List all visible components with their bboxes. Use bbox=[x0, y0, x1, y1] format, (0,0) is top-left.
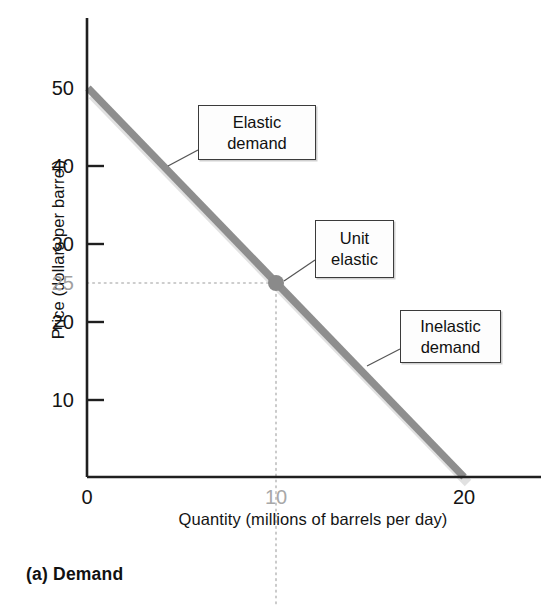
y-tick-label-10: 10 bbox=[12, 390, 74, 410]
callout-unit-elastic-line2: elastic bbox=[331, 249, 378, 270]
x-axis-title: Quantity (millions of barrels per day) bbox=[87, 510, 539, 529]
callout-unit-elastic-line1: Unit bbox=[340, 228, 369, 249]
callout-elastic-demand-line1: Elastic bbox=[233, 112, 282, 133]
elastic-demand-leader-line bbox=[168, 150, 198, 166]
demand-elasticity-figure: Price (dollars per barrel) Quantity (mil… bbox=[0, 0, 541, 605]
unit-elastic-point bbox=[268, 275, 284, 291]
y-tick-label-40: 40 bbox=[12, 156, 74, 176]
x-tick-label-20: 20 bbox=[434, 487, 494, 507]
y-tick-label-50: 50 bbox=[12, 78, 74, 98]
y-tick-label-30: 30 bbox=[12, 234, 74, 254]
y-tick-label-20: 20 bbox=[12, 312, 74, 332]
figure-caption: (a) Demand bbox=[26, 564, 123, 585]
callout-elastic-demand: Elastic demand bbox=[198, 105, 316, 160]
callout-inelastic-demand: Inelastic demand bbox=[400, 310, 501, 363]
unit-elastic-leader-line bbox=[284, 260, 315, 281]
inelastic-demand-leader-line bbox=[367, 349, 400, 366]
x-tick-label-0: 0 bbox=[57, 487, 117, 507]
y-axis-ticks bbox=[87, 166, 104, 400]
callout-inelastic-demand-line1: Inelastic bbox=[420, 316, 481, 337]
callout-unit-elastic: Unit elastic bbox=[315, 220, 394, 278]
y-tick-label-25: 25 bbox=[12, 273, 74, 293]
callout-inelastic-demand-line2: demand bbox=[421, 337, 481, 358]
x-tick-label-10: 10 bbox=[246, 487, 306, 507]
callout-elastic-demand-line2: demand bbox=[227, 133, 287, 154]
